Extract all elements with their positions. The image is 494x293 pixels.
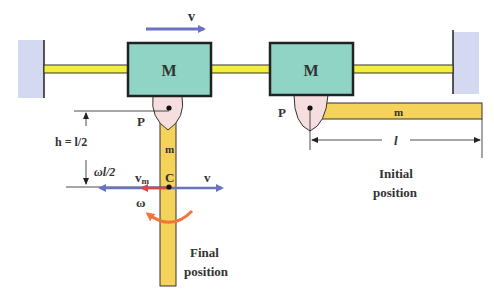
velocity-label-right: v (204, 170, 211, 185)
pivot-left-label: P (137, 114, 145, 129)
right-wall (453, 30, 479, 94)
velocity-arrow-top: v (146, 9, 204, 29)
omega-label: ω (136, 195, 146, 210)
vm-label: vm (135, 170, 150, 186)
rod-final-label: m (165, 143, 174, 155)
pivot-left (153, 96, 183, 130)
height-label: h = l/2 (55, 135, 87, 149)
pivot-right (294, 95, 328, 131)
velocity-label-top: v (188, 9, 195, 24)
center-of-mass-point (166, 184, 171, 189)
final-position-label-2: position (184, 264, 229, 279)
pivot-right-label: P (278, 105, 286, 120)
block-left-label: M (161, 62, 176, 79)
left-wall (18, 40, 44, 98)
rail (44, 65, 453, 73)
rod-initial-label: m (394, 106, 403, 118)
initial-position-label-1: Initial (379, 166, 413, 181)
length-label: l (394, 133, 398, 148)
center-label: C (165, 170, 174, 185)
block-right-label: M (303, 62, 318, 79)
diagram-canvas: v M P m h = l/2 ωl/2 C vm v ω Final posi… (0, 0, 494, 293)
final-position-label-1: Final (190, 245, 219, 260)
final-configuration: M P m h = l/2 ωl/2 C vm v ω Final positi… (55, 43, 229, 286)
initial-position-label-2: position (373, 185, 418, 200)
omega-l-half-label: ωl/2 (94, 165, 115, 179)
